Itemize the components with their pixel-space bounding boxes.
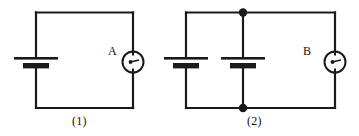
battery-plate-long [221,57,265,60]
figure-canvas: A B (1) (2) [0,0,359,136]
meter-pivot [331,60,335,64]
meter-gauge-a [123,52,144,73]
battery-cell [14,57,58,68]
battery-plate-short [23,63,49,68]
caption-circuit-2: (2) [247,114,262,129]
battery-plate-short [230,63,256,68]
battery-cell-middle [221,57,265,68]
battery-cell-left [164,57,208,68]
circuit-2 [164,8,346,112]
circuit-diagram [0,0,359,136]
battery-plate-long [164,57,208,60]
meter-label-a: A [108,44,117,59]
battery-plate-long [14,57,58,60]
circuit-1 [14,13,144,109]
meter-gauge-b [325,52,346,73]
meter-pivot [129,60,133,64]
caption-circuit-1: (1) [72,114,87,129]
junction-dot-top [239,8,247,16]
battery-plate-short [173,63,199,68]
meter-label-b: B [303,44,311,59]
junction-dot-bottom [239,104,247,112]
